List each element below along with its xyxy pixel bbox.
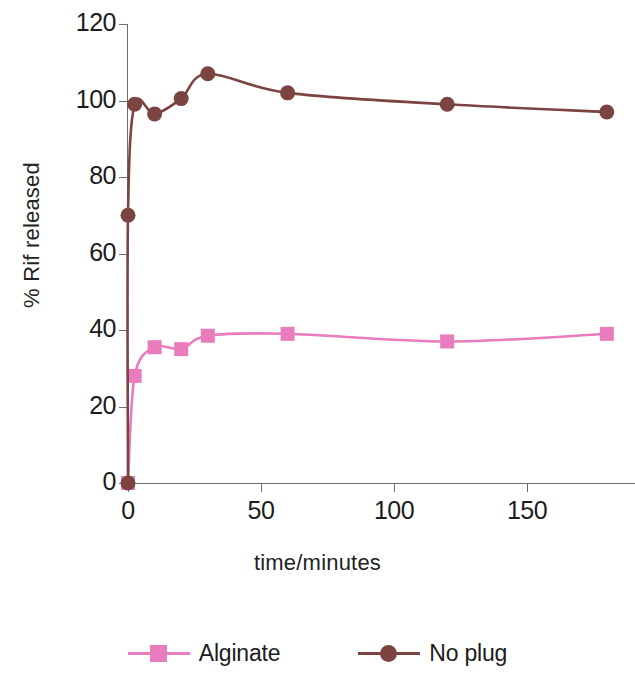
data-point-marker <box>281 327 295 341</box>
legend-circle-marker-icon <box>380 645 397 662</box>
y-tick-label: 20 <box>89 391 116 420</box>
legend-item-alginate[interactable]: Alginate <box>128 640 281 667</box>
data-point-marker <box>201 329 215 343</box>
chart-figure: 020406080100120 050100150 % Rif released… <box>0 0 635 677</box>
data-point-marker <box>148 340 162 354</box>
x-tick-mark <box>394 484 395 492</box>
data-point-marker <box>599 104 614 119</box>
y-tick-label: 120 <box>76 8 116 37</box>
data-point-marker <box>200 66 215 81</box>
chart-legend: AlginateNo plug <box>0 640 635 667</box>
series-line <box>128 333 607 483</box>
legend-swatch <box>358 643 420 665</box>
x-axis-title: time/minutes <box>0 550 635 576</box>
legend-swatch <box>128 643 190 665</box>
data-point-marker <box>147 106 162 121</box>
x-tick-label: 0 <box>121 496 134 525</box>
series-alginate <box>121 327 614 490</box>
y-tick-label: 40 <box>89 314 116 343</box>
y-tick-mark <box>119 483 128 484</box>
y-tick-label: 100 <box>76 85 116 114</box>
data-point-marker <box>440 334 454 348</box>
series-line <box>128 74 607 483</box>
x-tick-label: 50 <box>248 496 275 525</box>
y-tick-mark <box>119 24 128 25</box>
y-tick-mark <box>119 177 128 178</box>
y-tick-mark <box>119 330 128 331</box>
legend-label: No plug <box>429 640 507 667</box>
data-point-marker <box>174 91 189 106</box>
y-tick-label: 0 <box>103 467 116 496</box>
y-tick-label: 80 <box>89 161 116 190</box>
legend-square-marker-icon <box>150 645 167 662</box>
data-point-marker <box>121 208 136 223</box>
x-tick-mark <box>527 484 528 492</box>
y-tick-mark <box>119 101 128 102</box>
y-tick-mark <box>119 407 128 408</box>
x-axis-line <box>127 483 635 484</box>
legend-item-no-plug[interactable]: No plug <box>358 640 507 667</box>
y-tick-mark <box>119 254 128 255</box>
data-point-marker <box>128 369 142 383</box>
data-point-marker <box>174 342 188 356</box>
data-point-marker <box>440 97 455 112</box>
x-tick-mark <box>128 484 129 492</box>
legend-label: Alginate <box>199 640 281 667</box>
data-point-marker <box>600 327 614 341</box>
x-tick-label: 100 <box>374 496 414 525</box>
series-no-plug <box>121 66 615 483</box>
y-tick-label: 60 <box>89 238 116 267</box>
y-axis-title: % Rif released <box>19 135 45 335</box>
x-tick-mark <box>261 484 262 492</box>
data-point-marker <box>280 85 295 100</box>
x-tick-label: 150 <box>507 496 547 525</box>
data-point-marker <box>127 97 142 112</box>
